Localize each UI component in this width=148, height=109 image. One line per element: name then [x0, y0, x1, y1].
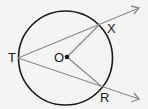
- radius-ox: [67, 24, 100, 57]
- ray-tx: [18, 8, 139, 58]
- label-x: X: [107, 22, 116, 35]
- radius-or: [67, 57, 101, 86]
- ray-tr: [18, 58, 139, 99]
- label-r: R: [100, 91, 109, 104]
- label-t: T: [8, 51, 16, 64]
- center-point-o: [65, 55, 70, 60]
- figure-canvas: [0, 0, 148, 109]
- label-o: O: [54, 51, 64, 64]
- geometry-figure: T O X R: [0, 0, 148, 109]
